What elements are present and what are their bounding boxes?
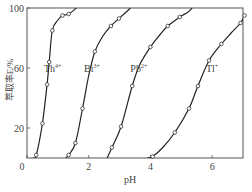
label-pb2: Pb2+ (130, 63, 148, 74)
marker-tl (196, 84, 200, 88)
extraction-chart: 02462060100 Th4+Bi3+Pb2+Tl+ pH 萃取率E/% (0, 0, 252, 192)
x-tick-label: 4 (148, 161, 153, 172)
marker-th4 (41, 122, 45, 126)
chart-canvas: 02462060100 Th4+Bi3+Pb2+Tl+ pH 萃取率E/% (0, 0, 252, 192)
x-axis-label: pH (124, 174, 136, 185)
marker-bi3 (81, 107, 85, 111)
marker-bi3 (67, 153, 71, 157)
series-labels: Th4+Bi3+Pb2+Tl+ (44, 63, 219, 74)
marker-th4 (51, 29, 55, 33)
x-tick-label: 2 (86, 161, 91, 172)
y-tick-label: 60 (14, 63, 24, 74)
label-th4: Th4+ (44, 63, 62, 74)
marker-tl (151, 155, 155, 159)
marker-th4 (34, 153, 38, 157)
curve-pb2 (107, 8, 192, 158)
plot-frame (27, 8, 243, 158)
y-axis-label: 萃取率E/% (4, 58, 15, 101)
marker-pb2 (119, 125, 123, 129)
label-bi3: Bi3+ (84, 63, 100, 74)
marker-pb2 (130, 84, 134, 88)
marker-bi3 (117, 17, 121, 21)
x-tick-label: 0 (20, 161, 25, 172)
x-tick-label: 6 (210, 161, 215, 172)
marker-pb2 (149, 45, 153, 49)
marker-th4 (45, 83, 49, 87)
curve-bi3 (66, 8, 131, 158)
marker-tl (207, 59, 211, 63)
data-markers (34, 12, 246, 158)
curves (33, 8, 246, 158)
marker-bi3 (109, 24, 113, 28)
label-tl: Tl+ (206, 63, 219, 74)
curve-th4 (33, 8, 76, 158)
marker-bi3 (74, 141, 78, 145)
y-tick-label: 100 (9, 3, 24, 14)
marker-tl (187, 107, 191, 111)
y-tick-label: 20 (14, 123, 24, 134)
marker-tl (243, 14, 247, 18)
marker-pb2 (110, 146, 114, 150)
marker-pb2 (178, 15, 182, 19)
marker-bi3 (93, 50, 97, 54)
marker-tl (239, 21, 243, 25)
marker-th4 (67, 12, 71, 16)
marker-th4 (61, 14, 65, 18)
marker-tl (220, 42, 224, 46)
marker-tl (173, 131, 177, 135)
marker-pb2 (166, 24, 170, 28)
axes: 02462060100 (9, 3, 243, 173)
